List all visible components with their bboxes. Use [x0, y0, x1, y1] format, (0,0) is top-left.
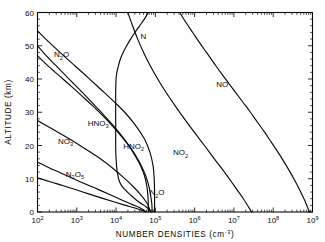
curve-hno3 — [38, 46, 153, 212]
x-tick-label: 103 — [71, 215, 83, 225]
svg-text:ALTITUDE (km): ALTITUDE (km) — [4, 79, 13, 144]
curve-no — [180, 13, 310, 213]
x-tick-label: 107 — [228, 215, 240, 225]
curve-hno2 — [38, 56, 149, 212]
x-tick-label: 106 — [189, 215, 201, 225]
y-tick-label: 20 — [25, 142, 34, 151]
figure-container: 102103104105106107108109 0102030405060 N… — [0, 0, 325, 242]
x-axis-ticks — [38, 13, 313, 213]
curve-label-no2: NO2 — [173, 148, 188, 158]
curve-labels: NONO2NN2ON2OHNO3HNO2NO3N2O5 — [54, 32, 228, 198]
y-tick-label: 0 — [30, 208, 35, 217]
y-tick-label: 40 — [25, 75, 34, 84]
svg-text:NUMBER DENSITIES (cm-3): NUMBER DENSITIES (cm-3) — [116, 229, 234, 239]
curve-label-n2o: N2O — [149, 188, 164, 198]
curve-label-hno3: HNO3 — [88, 119, 109, 129]
y-tick-label: 60 — [25, 9, 34, 18]
x-tick-label: 108 — [267, 215, 279, 225]
y-axis-title: ALTITUDE (km) — [4, 79, 13, 144]
y-tick-label: 30 — [25, 108, 34, 117]
y-axis-ticks — [38, 13, 313, 213]
y-tick-label: 10 — [25, 175, 34, 184]
x-tick-label: 109 — [306, 215, 318, 225]
x-axis-tick-labels: 102103104105106107108109 — [31, 215, 318, 225]
chart-canvas: 102103104105106107108109 0102030405060 N… — [0, 0, 325, 242]
plot-frame — [38, 13, 313, 213]
y-axis-tick-labels: 0102030405060 — [25, 9, 34, 218]
curve-label-n: N — [140, 32, 146, 41]
curve-label-no3: NO3 — [58, 137, 73, 147]
data-curves — [38, 13, 310, 213]
curve-label-hno2: HNO2 — [123, 142, 144, 152]
curve-label-n2o5: N2O5 — [66, 170, 84, 180]
curve-label-n2o-2: N2O — [54, 50, 69, 60]
y-tick-label: 50 — [25, 42, 34, 51]
curve-label-no: NO — [216, 80, 228, 89]
x-tick-label: 105 — [149, 215, 161, 225]
curve-n2o5 — [38, 162, 146, 212]
x-axis-title: NUMBER DENSITIES (cm-3) — [116, 229, 234, 239]
x-tick-label: 104 — [110, 215, 122, 225]
